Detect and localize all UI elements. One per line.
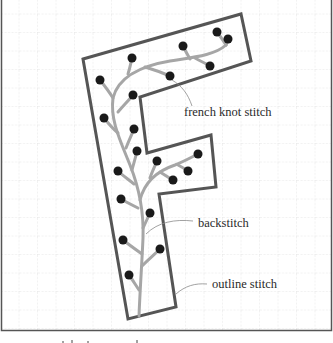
label-outline-stitch: outline stitch xyxy=(212,278,277,291)
french-knot xyxy=(206,62,215,71)
french-knot xyxy=(128,54,137,63)
embroidery-diagram: french knot stitch backstitch outline st… xyxy=(0,0,333,343)
french-knot xyxy=(100,114,109,123)
french-knot xyxy=(125,271,134,280)
french-knot xyxy=(119,236,128,245)
french-knot xyxy=(146,209,155,218)
label-backstitch: backstitch xyxy=(198,217,249,230)
french-knot xyxy=(96,76,105,85)
french-knot xyxy=(213,28,222,37)
french-knot xyxy=(224,35,233,44)
grid-background xyxy=(2,0,331,330)
french-knot xyxy=(184,167,193,176)
french-knot xyxy=(129,91,138,100)
label-french-knot-stitch: french knot stitch xyxy=(184,106,271,119)
french-knot xyxy=(179,42,188,51)
french-knot xyxy=(133,147,142,156)
french-knot xyxy=(156,245,165,254)
french-knot xyxy=(117,195,126,204)
french-knot xyxy=(194,150,203,159)
french-knot xyxy=(166,72,175,81)
french-knot xyxy=(130,125,139,134)
french-knot xyxy=(114,167,123,176)
french-knot xyxy=(169,176,178,185)
french-knot xyxy=(153,157,162,166)
